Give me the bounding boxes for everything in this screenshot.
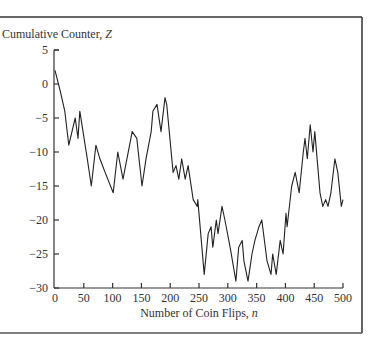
y-tick-label: −20 xyxy=(29,213,48,227)
x-tick-label: 350 xyxy=(248,291,266,305)
axes: 50−5−10−15−20−25−30 05010015020025030035… xyxy=(29,43,352,305)
x-tick-label: 400 xyxy=(276,291,294,305)
x-tick-label: 250 xyxy=(190,291,208,305)
x-tick-label: 0 xyxy=(52,291,58,305)
x-tick-label: 200 xyxy=(161,291,179,305)
x-tick-label: 500 xyxy=(334,291,352,305)
y-tick-label: −30 xyxy=(29,281,48,295)
y-tick-label: −5 xyxy=(35,111,48,125)
x-tick-label: 150 xyxy=(132,291,150,305)
x-tick-label: 450 xyxy=(305,291,323,305)
data-line-z xyxy=(55,70,343,281)
x-tick-label: 100 xyxy=(104,291,122,305)
x-axis-title: Number of Coin Flips, n xyxy=(140,306,258,320)
x-tick-label: 300 xyxy=(219,291,237,305)
x-tick-label: 50 xyxy=(78,291,90,305)
y-axis-title: Cumulative Counter, Z xyxy=(2,27,112,41)
y-tick-label: −15 xyxy=(29,179,48,193)
y-tick-label: −10 xyxy=(29,145,48,159)
y-tick-label: 0 xyxy=(42,77,48,91)
chart-figure: Cumulative Counter, Z 50−5−10−15−20−25−3… xyxy=(0,0,378,345)
y-tick-label: 5 xyxy=(42,43,48,57)
y-tick-label: −25 xyxy=(29,247,48,261)
x-ticks: 050100150200250300350400450500 xyxy=(52,283,352,305)
